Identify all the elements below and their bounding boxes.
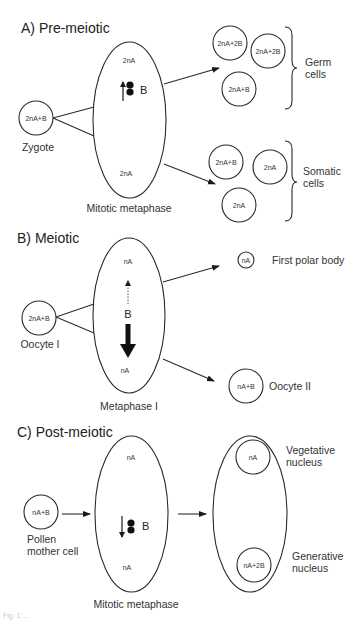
spindle-label: Metaphase I	[100, 400, 158, 412]
generative-nucleus-content: nA+2B	[243, 562, 265, 569]
spindle-line-bottom	[56, 317, 94, 333]
somatic-cell-content: 2nA+B	[215, 159, 237, 166]
b-chromosome-label: B	[142, 520, 149, 532]
first-polar-body: nA First polar body	[238, 252, 345, 268]
oocyte-ii-label: Oocyte II	[269, 380, 311, 392]
pollen-mother-label-line2: mother cell	[27, 545, 78, 557]
germ-cells-group: 2nA+2B 2nA+2B 2nA+B Germ cells	[213, 26, 332, 109]
caption-fragment: Fig. 1 ...	[3, 612, 28, 620]
meiotic-spindle-b: nA nA B Metaphase I	[93, 238, 165, 412]
section-b-title: B) Meiotic	[17, 230, 79, 246]
spindle-line-top	[53, 107, 94, 118]
spindle-bottom-pole: 2nA	[120, 170, 133, 177]
generative-label-line1: Generative	[292, 550, 344, 562]
germ-cell-content: 2nA+2B	[217, 40, 242, 47]
germ-cell-content: 2nA+B	[228, 86, 250, 93]
polar-body-content: nA	[242, 257, 251, 264]
germ-cell-content: 2nA+2B	[255, 48, 280, 55]
pollen-mother-content: nA+B	[32, 509, 50, 516]
strong-downward-arrow-icon	[120, 324, 136, 358]
pollen-grain: nA Vegetative nucleus nA+2B Generative n…	[213, 436, 344, 592]
germ-label-line1: Germ	[305, 56, 332, 68]
somatic-cell-content: 2nA	[264, 164, 277, 171]
somatic-cells-group: 2nA+B 2nA 2nA Somatic cells	[209, 141, 341, 222]
pollen-mother-cell: nA+B Pollen mother cell	[24, 495, 78, 557]
zygote-cell: 2nA+B Zygote	[19, 101, 54, 153]
vegetative-label-line1: Vegetative	[286, 444, 335, 456]
generative-label-line2: nucleus	[292, 562, 328, 574]
zygote-content: 2nA+B	[25, 115, 47, 122]
vegetative-nucleus-content: nA	[249, 454, 258, 461]
pollen-mother-label-line1: Pollen	[27, 533, 56, 545]
somatic-cell-content: 2nA	[233, 202, 246, 209]
b-chromosome-label: B	[124, 308, 131, 320]
arrow-to-oocyte-ii	[163, 359, 214, 381]
section-post-meiotic: C) Post-meiotic nA+B Pollen mother cell …	[17, 424, 344, 610]
somatic-label-line2: cells	[303, 177, 324, 189]
b-chromosome-icon	[126, 81, 133, 95]
section-pre-meiotic: A) Pre-meiotic 2nA+B Zygote 2nA 2nA B Mi…	[19, 20, 341, 222]
polar-body-label: First polar body	[272, 254, 345, 266]
spindle-line-top	[56, 304, 94, 317]
section-meiotic: B) Meiotic 2nA+B Oocyte I nA nA B Metaph…	[17, 230, 345, 412]
spindle-top-pole: nA	[127, 454, 136, 461]
spindle-label: Mitotic metaphase	[86, 202, 171, 214]
oocyte-i-label: Oocyte I	[20, 338, 59, 350]
vegetative-label-line2: nucleus	[286, 456, 322, 468]
oocyte-i-content: 2nA+B	[28, 315, 50, 322]
section-c-title: C) Post-meiotic	[17, 424, 113, 440]
arrow-to-polar-body	[163, 266, 219, 282]
b-chromosome-label: B	[140, 84, 147, 96]
mitotic-spindle-a: 2nA 2nA B Mitotic metaphase	[86, 42, 171, 214]
spindle-top-pole: 2nA	[123, 57, 136, 64]
somatic-brace-icon	[285, 141, 297, 221]
zygote-label: Zygote	[22, 141, 54, 153]
spindle-bottom-pole: nA	[123, 564, 132, 571]
spindle-top-pole: nA	[124, 258, 133, 265]
spindle-label: Mitotic metaphase	[93, 598, 178, 610]
spindle-bottom-pole: nA	[121, 367, 130, 374]
spindle-line-bottom	[53, 118, 94, 136]
oocyte-i-cell: 2nA+B Oocyte I	[20, 301, 59, 350]
b-chromosome-drive-diagram: A) Pre-meiotic 2nA+B Zygote 2nA 2nA B Mi…	[0, 0, 362, 620]
somatic-label-line1: Somatic	[303, 165, 341, 177]
oocyte-ii-cell: nA+B Oocyte II	[229, 369, 311, 403]
arrow-to-somatic-cells	[164, 164, 215, 184]
germ-label-line2: cells	[305, 68, 326, 80]
arrow-to-germ-cells	[164, 68, 219, 84]
section-a-title: A) Pre-meiotic	[21, 20, 110, 36]
oocyte-ii-content: nA+B	[237, 383, 255, 390]
mitotic-spindle-c: nA nA B Mitotic metaphase	[93, 436, 178, 610]
germ-brace-icon	[285, 27, 297, 109]
b-chromosome-icon	[127, 519, 134, 533]
